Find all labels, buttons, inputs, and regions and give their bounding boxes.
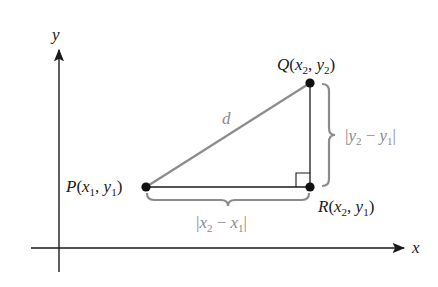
hypotenuse-label: d (222, 109, 231, 128)
vertical-distance-label: |y2 − y1| (345, 126, 396, 147)
diagram-svg: y x d P(x1, y1) Q(x2, y2) R(x2, y1) (0, 0, 438, 287)
point-r (305, 182, 314, 191)
distance-formula-diagram: y x d P(x1, y1) Q(x2, y2) R(x2, y1) (0, 0, 438, 287)
horizontal-distance-label: |x2 − x1| (196, 213, 247, 234)
point-p (141, 182, 150, 191)
vertical-brace (322, 84, 335, 186)
x-axis-label: x (411, 238, 420, 257)
point-q (305, 78, 314, 87)
point-q-label: Q(x2, y2) (277, 55, 335, 76)
hypotenuse-segment (146, 83, 310, 187)
horizontal-brace (147, 193, 309, 206)
point-p-label: P(x1, y1) (65, 177, 122, 198)
point-r-label: R(x2, y1) (317, 197, 374, 218)
y-axis-label: y (50, 25, 60, 44)
